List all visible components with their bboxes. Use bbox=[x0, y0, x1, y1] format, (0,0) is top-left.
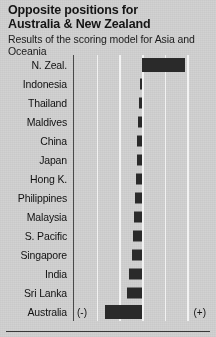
chart-plot-area: N. Zeal.IndonesiaThailandMaldivesChinaJa… bbox=[6, 55, 210, 332]
bar bbox=[138, 116, 142, 127]
bar bbox=[139, 97, 142, 108]
gridline bbox=[119, 264, 121, 283]
gridline bbox=[119, 188, 121, 207]
gridline bbox=[142, 74, 144, 93]
gridline bbox=[97, 207, 99, 226]
bar bbox=[137, 135, 142, 146]
gridline bbox=[187, 93, 189, 112]
bar bbox=[105, 305, 142, 319]
gridline bbox=[165, 150, 167, 169]
gridline bbox=[97, 283, 99, 302]
bar bbox=[142, 58, 185, 72]
gridline bbox=[165, 74, 167, 93]
gridline bbox=[187, 169, 189, 188]
category-label: S. Pacific bbox=[6, 230, 73, 242]
chart-header: Opposite positions for Australia & New Z… bbox=[8, 4, 210, 57]
chart-row: Hong K. bbox=[6, 169, 210, 188]
bar-track bbox=[73, 150, 210, 169]
gridline bbox=[187, 112, 189, 131]
chart-row: Japan bbox=[6, 150, 210, 169]
gridline bbox=[165, 207, 167, 226]
gridline bbox=[187, 188, 189, 207]
gridline bbox=[119, 245, 121, 264]
gridline bbox=[119, 283, 121, 302]
gridline bbox=[119, 55, 121, 74]
category-label: Philippines bbox=[6, 192, 73, 204]
bar-track bbox=[73, 169, 210, 188]
gridline bbox=[142, 264, 144, 283]
bar-track: (-)(+) bbox=[73, 302, 210, 321]
bar-track bbox=[73, 188, 210, 207]
bar bbox=[137, 154, 142, 165]
gridline bbox=[97, 264, 99, 283]
chart-figure: Opposite positions for Australia & New Z… bbox=[0, 0, 216, 337]
chart-row: N. Zeal. bbox=[6, 55, 210, 74]
category-label: Hong K. bbox=[6, 173, 73, 185]
gridline bbox=[142, 302, 144, 321]
axis-positive-label: (+) bbox=[194, 306, 207, 317]
gridline bbox=[165, 188, 167, 207]
gridline bbox=[187, 207, 189, 226]
category-label: China bbox=[6, 135, 73, 147]
chart-row: Indonesia bbox=[6, 74, 210, 93]
gridline bbox=[119, 150, 121, 169]
chart-row: Sri Lanka bbox=[6, 283, 210, 302]
chart-row: India bbox=[6, 264, 210, 283]
gridline bbox=[165, 245, 167, 264]
gridline bbox=[97, 302, 99, 321]
bar bbox=[129, 268, 142, 279]
category-label: N. Zeal. bbox=[6, 59, 73, 71]
gridline bbox=[119, 74, 121, 93]
gridline bbox=[165, 169, 167, 188]
chart-row: S. Pacific bbox=[6, 226, 210, 245]
gridline bbox=[165, 131, 167, 150]
bar-track bbox=[73, 74, 210, 93]
gridline bbox=[142, 188, 144, 207]
gridline bbox=[97, 226, 99, 245]
gridline bbox=[187, 55, 189, 74]
chart-row: Philippines bbox=[6, 188, 210, 207]
gridline bbox=[165, 283, 167, 302]
bar-track bbox=[73, 226, 210, 245]
category-label: Singapore bbox=[6, 249, 73, 261]
gridline bbox=[119, 112, 121, 131]
bar-track bbox=[73, 112, 210, 131]
chart-row: China bbox=[6, 131, 210, 150]
gridline bbox=[142, 131, 144, 150]
gridline bbox=[97, 188, 99, 207]
gridline bbox=[165, 112, 167, 131]
gridline bbox=[142, 169, 144, 188]
gridline bbox=[187, 245, 189, 264]
axis-negative-label: (-) bbox=[77, 306, 87, 317]
gridline bbox=[187, 226, 189, 245]
chart-row: Singapore bbox=[6, 245, 210, 264]
bar bbox=[140, 78, 142, 89]
bar-track bbox=[73, 131, 210, 150]
category-label: Indonesia bbox=[6, 78, 73, 90]
gridline bbox=[187, 150, 189, 169]
gridline bbox=[97, 131, 99, 150]
gridline bbox=[142, 112, 144, 131]
category-label: Sri Lanka bbox=[6, 287, 73, 299]
gridline bbox=[187, 74, 189, 93]
bar bbox=[135, 192, 142, 203]
category-label: India bbox=[6, 268, 73, 280]
bar-track bbox=[73, 207, 210, 226]
gridline bbox=[142, 283, 144, 302]
bar bbox=[133, 230, 142, 241]
chart-row: Australia(-)(+) bbox=[6, 302, 210, 321]
gridline bbox=[165, 302, 167, 321]
bar bbox=[132, 249, 142, 260]
gridline bbox=[187, 283, 189, 302]
category-label: Thailand bbox=[6, 97, 73, 109]
gridline bbox=[97, 93, 99, 112]
gridline bbox=[165, 93, 167, 112]
gridline bbox=[119, 93, 121, 112]
bar-track bbox=[73, 245, 210, 264]
chart-row: Maldives bbox=[6, 112, 210, 131]
gridline bbox=[97, 74, 99, 93]
gridline bbox=[187, 264, 189, 283]
gridline bbox=[142, 150, 144, 169]
bar-track bbox=[73, 283, 210, 302]
category-label: Australia bbox=[6, 306, 73, 318]
